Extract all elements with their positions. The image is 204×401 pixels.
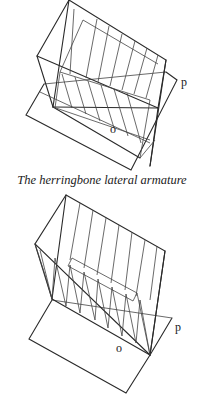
plane-label: p [181, 75, 187, 89]
origin-label: o [110, 122, 116, 136]
plane-label: p [175, 320, 181, 334]
figure-herringbone-armature: p o [0, 0, 204, 175]
figure-caption: The herringbone lateral armature [0, 173, 204, 188]
plane-p [29, 300, 172, 393]
figure-second-armature: p o [0, 190, 204, 401]
herringbone-diagram: p o [0, 0, 204, 175]
origin-label: o [116, 341, 122, 355]
armature-box [37, 0, 166, 166]
second-armature-diagram: p o [0, 190, 204, 401]
armature-box [35, 195, 165, 355]
